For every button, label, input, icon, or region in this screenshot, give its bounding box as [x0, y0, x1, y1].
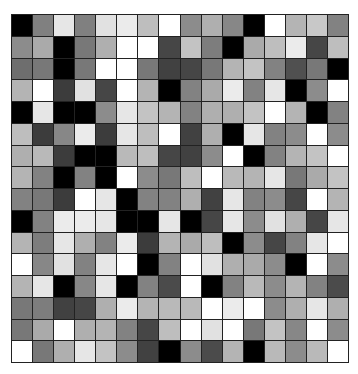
- grid-cell: [75, 341, 95, 362]
- grid-cell: [181, 298, 201, 319]
- grid-cell: [75, 59, 95, 80]
- grid-cell: [33, 146, 53, 167]
- grid-cell: [265, 146, 285, 167]
- grid-cell: [244, 276, 264, 297]
- grid-cell: [138, 233, 158, 254]
- grid-cell: [328, 80, 348, 101]
- grid-cell: [181, 341, 201, 362]
- grid-cell: [244, 59, 264, 80]
- grid-cell: [181, 254, 201, 275]
- grid-cell: [223, 276, 243, 297]
- grid-cell: [159, 37, 179, 58]
- grid-cell: [223, 254, 243, 275]
- grid-cell: [12, 254, 32, 275]
- grid-cell: [265, 276, 285, 297]
- grid-cell: [244, 167, 264, 188]
- grid-cell: [202, 320, 222, 341]
- grid-cell: [75, 124, 95, 145]
- grid-cell: [181, 146, 201, 167]
- grid-cell: [54, 233, 74, 254]
- grid-cell: [159, 211, 179, 232]
- grid-cell: [54, 146, 74, 167]
- grid-cell: [117, 37, 137, 58]
- grid-cell: [223, 320, 243, 341]
- grid-cell: [265, 211, 285, 232]
- grid-cell: [307, 59, 327, 80]
- grid-cell: [54, 341, 74, 362]
- grid-cell: [54, 15, 74, 36]
- grid-cell: [96, 124, 116, 145]
- grid-cell: [202, 37, 222, 58]
- grid-cell: [54, 37, 74, 58]
- grid-cell: [96, 59, 116, 80]
- grid-cell: [159, 124, 179, 145]
- grid-cell: [33, 298, 53, 319]
- grid-cell: [181, 233, 201, 254]
- grid-cell: [159, 276, 179, 297]
- grid-cell: [117, 320, 137, 341]
- grid-cell: [75, 80, 95, 101]
- grid-cell: [117, 80, 137, 101]
- grid-cell: [138, 15, 158, 36]
- grid-cell: [286, 124, 306, 145]
- grid-cell: [202, 167, 222, 188]
- grid-cell: [223, 189, 243, 210]
- grid-cell: [307, 298, 327, 319]
- grid-cell: [117, 59, 137, 80]
- grid-cell: [33, 59, 53, 80]
- grid-cell: [159, 189, 179, 210]
- grid-cell: [307, 80, 327, 101]
- grid-cell: [265, 59, 285, 80]
- grid-cell: [328, 124, 348, 145]
- grid-cell: [138, 37, 158, 58]
- grid-cell: [181, 124, 201, 145]
- grid-cell: [96, 189, 116, 210]
- grid-cell: [138, 298, 158, 319]
- grid-cell: [138, 59, 158, 80]
- grid-cell: [33, 189, 53, 210]
- grid-cell: [328, 37, 348, 58]
- grid-cell: [159, 298, 179, 319]
- grid-cell: [265, 15, 285, 36]
- grid-cell: [286, 59, 306, 80]
- grid-cell: [33, 102, 53, 123]
- grid-cell: [307, 146, 327, 167]
- grid-cell: [328, 233, 348, 254]
- grid-cell: [202, 15, 222, 36]
- grid-cell: [328, 254, 348, 275]
- grid-cell: [12, 80, 32, 101]
- grid-cell: [75, 37, 95, 58]
- grid-cell: [202, 276, 222, 297]
- grid-cell: [307, 124, 327, 145]
- grid-cell: [223, 341, 243, 362]
- grid-cell: [96, 80, 116, 101]
- grid-cell: [307, 233, 327, 254]
- grid-cell: [244, 102, 264, 123]
- grid-cell: [159, 146, 179, 167]
- grid-cell: [223, 233, 243, 254]
- grid-cell: [307, 37, 327, 58]
- grid-cell: [75, 320, 95, 341]
- grid-cell: [265, 189, 285, 210]
- grid-cell: [265, 124, 285, 145]
- grid-cell: [33, 254, 53, 275]
- grid-cell: [54, 320, 74, 341]
- grid-cell: [202, 341, 222, 362]
- grid-cell: [54, 211, 74, 232]
- grid-cell: [138, 320, 158, 341]
- grid-cell: [328, 59, 348, 80]
- grid-cell: [75, 233, 95, 254]
- grid-cell: [12, 276, 32, 297]
- grid-cell: [286, 15, 306, 36]
- grid-cell: [12, 298, 32, 319]
- grid-cell: [202, 254, 222, 275]
- grid-cell: [75, 211, 95, 232]
- grid-cell: [223, 15, 243, 36]
- grid-cell: [159, 167, 179, 188]
- grid-cell: [12, 320, 32, 341]
- grid-cell: [328, 298, 348, 319]
- grid-cell: [96, 37, 116, 58]
- grid-cell: [75, 167, 95, 188]
- grid-cell: [286, 276, 306, 297]
- grid-cell: [96, 254, 116, 275]
